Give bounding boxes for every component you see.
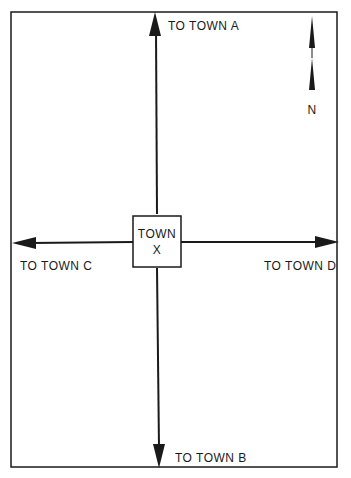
compass-arrow-icon: [309, 16, 315, 48]
arrow-north-icon: [149, 12, 161, 36]
label-to-town-a: TO TOWN A: [168, 19, 239, 33]
label-to-town-b: TO TOWN B: [175, 451, 247, 465]
compass-label: N: [307, 103, 316, 117]
arrow-south-icon: [153, 444, 165, 468]
road-east: [181, 236, 339, 248]
north-compass: N: [307, 16, 316, 117]
town-x-box: [133, 216, 181, 267]
arrow-west-icon: [12, 237, 36, 249]
road-north: [149, 12, 161, 214]
label-to-town-c: TO TOWN C: [20, 259, 93, 273]
road-west: [12, 237, 133, 249]
town-x-label-line2: X: [153, 243, 162, 257]
label-to-town-d: TO TOWN D: [264, 259, 337, 273]
road-map-diagram: TOWN X TO TOWN A TO TOWN B TO TOWN C TO …: [0, 0, 351, 478]
arrow-east-icon: [315, 236, 339, 248]
town-x-label-line1: TOWN: [138, 227, 176, 241]
road-south: [153, 268, 165, 468]
